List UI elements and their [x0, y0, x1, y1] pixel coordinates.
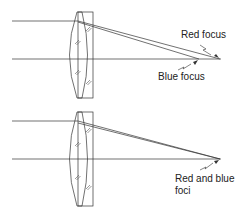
blue-focus-label: Blue focus: [158, 71, 205, 82]
pointer-icon: [200, 163, 213, 170]
foci-label-line1: Red and blue: [175, 173, 235, 184]
convex-lens-left: [70, 12, 78, 98]
blue-ray: [78, 22, 199, 59]
blue-ray: [78, 123, 220, 159]
foci-label-line2: foci: [175, 185, 191, 196]
red-ray: [78, 21, 220, 59]
blue-pointer-icon: [178, 64, 191, 70]
red-pointer-icon: [200, 45, 211, 55]
red-focus-label: Red focus: [181, 29, 226, 40]
top-diagram: [12, 12, 221, 98]
concave-lens: [78, 12, 93, 98]
